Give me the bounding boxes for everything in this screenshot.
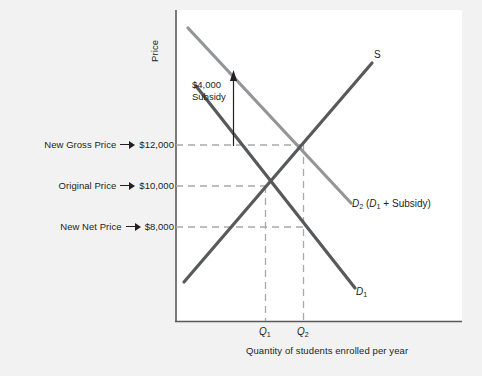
- figure-container: Price Quantity of students enrolled per …: [0, 0, 482, 376]
- curve-label-supply-text: S: [374, 49, 381, 60]
- curve-label-demand2-suffix-sub: 1: [377, 202, 381, 211]
- subsidy-word: Subsidy: [192, 91, 226, 102]
- x-tick-label-q2: Q2: [297, 326, 309, 337]
- curve-label-demand2: D2 (D1 + Subsidy): [352, 198, 431, 209]
- price-value-new-net: $8,000: [145, 221, 174, 232]
- subsidy-annotation: $4,000 Subsidy: [192, 79, 238, 102]
- price-row-new-net: New Net Price $8,000: [60, 221, 174, 232]
- price-value-original: $10,000: [139, 180, 174, 191]
- q2-sub: 2: [305, 330, 309, 339]
- price-label-new-net: New Net Price: [60, 221, 121, 232]
- x-axis-title: Quantity of students enrolled per year: [246, 345, 408, 356]
- curve-label-demand1-sub: 1: [363, 290, 367, 299]
- x-tick-label-q1: Q1: [259, 326, 271, 337]
- right-arrow-icon: [126, 222, 142, 231]
- price-label-new-gross: New Gross Price: [44, 139, 116, 150]
- right-arrow-icon: [120, 140, 136, 149]
- curve-label-demand2-suffix-base: D: [369, 198, 376, 209]
- q2-base: Q: [297, 326, 305, 337]
- y-axis-title: Price: [149, 40, 160, 62]
- demand-curve-d1: [196, 86, 355, 288]
- q1-sub: 1: [267, 330, 271, 339]
- curve-label-supply: S: [374, 49, 381, 60]
- curve-label-demand2-tail: + Subsidy): [381, 198, 431, 209]
- price-label-original: Original Price: [59, 180, 117, 191]
- curve-label-demand2-sub: 2: [359, 202, 363, 211]
- right-arrow-icon: [120, 181, 136, 190]
- price-value-new-gross: $12,000: [139, 139, 174, 150]
- price-row-original: Original Price $10,000: [59, 180, 174, 191]
- curve-label-demand1: D1: [356, 286, 367, 297]
- subsidy-amount: $4,000: [192, 79, 221, 90]
- q1-base: Q: [259, 326, 267, 337]
- price-row-new-gross: New Gross Price $12,000: [44, 139, 174, 150]
